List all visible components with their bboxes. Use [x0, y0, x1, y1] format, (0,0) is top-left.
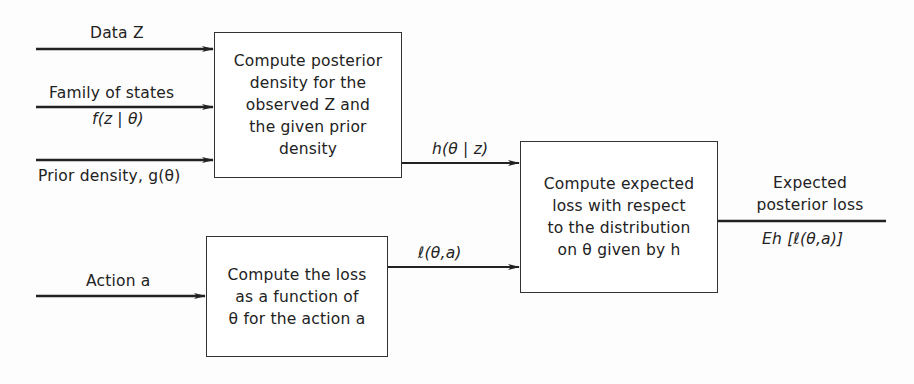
box-posterior: Compute posterior density for the observ… [214, 32, 402, 178]
label-data-z: Data Z [90, 24, 144, 42]
box-loss: Compute the loss as a function of θ for … [206, 236, 388, 357]
label-action: Action a [86, 272, 151, 290]
label-family: Family of states [49, 84, 174, 102]
box-expected: Compute expected loss with respect to th… [520, 141, 718, 293]
box-loss-text: Compute the loss as a function of θ for … [227, 264, 366, 330]
box-posterior-text: Compute posterior density for the observ… [234, 50, 383, 160]
decision-diagram: Data Z Family of states f(z | θ) Prior d… [0, 0, 914, 384]
label-family-formula: f(z | θ) [92, 110, 144, 128]
label-posterior-out: h(θ | z) [432, 140, 488, 158]
label-loss-out: ℓ(θ,a) [418, 244, 462, 262]
box-expected-text: Compute expected loss with respect to th… [544, 173, 695, 261]
label-prior: Prior density, g(θ) [38, 167, 180, 185]
label-output-formula: Eh [ℓ(θ,a)] [762, 230, 843, 248]
label-output: Expected posterior loss [745, 172, 875, 216]
